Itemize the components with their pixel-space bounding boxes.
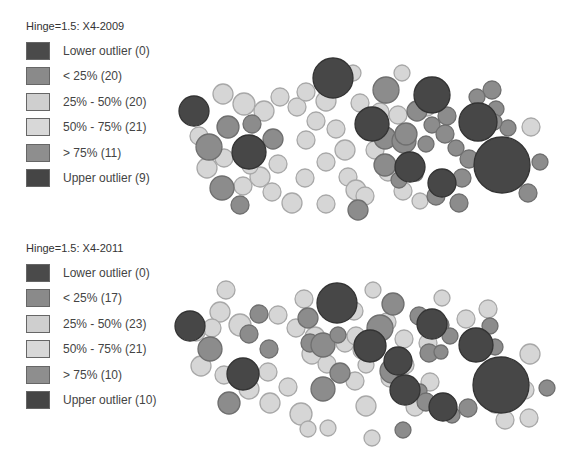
circle-cartogram-2009 — [0, 0, 566, 225]
box-map-2009: Hinge=1.5: X4-2009 Lower outlier (0) < 2… — [0, 0, 566, 225]
circle-cartogram-2011 — [0, 225, 566, 457]
box-map-2011: Hinge=1.5: X4-2011 Lower outlier (0) < 2… — [0, 225, 566, 457]
